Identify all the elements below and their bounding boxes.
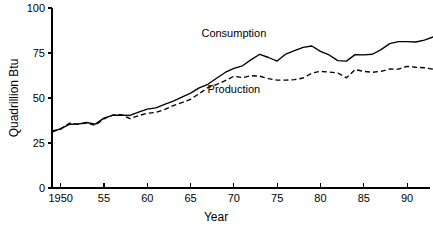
x-tick-label-1975: 75 <box>271 192 283 204</box>
series-label-production: Production <box>208 83 261 95</box>
y-tick-label-100: 100 <box>27 2 45 14</box>
x-axis-title: Year <box>204 210 228 224</box>
x-tick-label-1990: 90 <box>401 192 413 204</box>
chart-container: 025507510019505560657075808590 Consumpti… <box>0 0 433 226</box>
y-axis-title: Quadrillion Btu <box>7 59 21 138</box>
x-tick-label-1950: 1950 <box>48 192 72 204</box>
x-tick-label-1985: 85 <box>358 192 370 204</box>
series-label-consumption: Consumption <box>201 27 266 39</box>
x-tick-label-1970: 70 <box>228 192 240 204</box>
y-tick-label-25: 25 <box>33 137 45 149</box>
line-chart: 025507510019505560657075808590 Consumpti… <box>0 0 433 226</box>
x-tick-label-1955: 55 <box>98 192 110 204</box>
series-annotations: ConsumptionProduction <box>201 27 266 95</box>
y-tick-label-50: 50 <box>33 92 45 104</box>
y-tick-label-0: 0 <box>39 182 45 194</box>
x-tick-label-1965: 65 <box>184 192 196 204</box>
x-tick-label-1980: 80 <box>314 192 326 204</box>
y-tick-label-75: 75 <box>33 47 45 59</box>
x-tick-label-1960: 60 <box>141 192 153 204</box>
series-line-production <box>52 66 433 131</box>
